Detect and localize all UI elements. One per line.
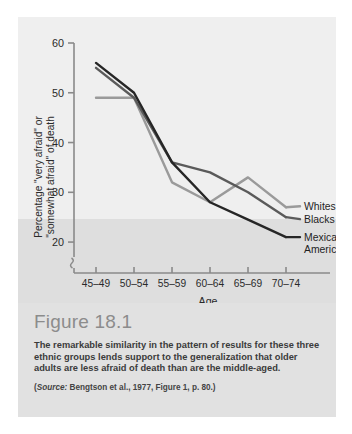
- y-axis-title-line2: "somewhat afraid" of death: [45, 116, 56, 238]
- x-axis-ticks: 45–4950–5455–5960–6465–6970–74: [82, 267, 301, 289]
- source-citation: Bengtson et al., 1977, Figure 1, p. 80.: [67, 383, 213, 392]
- figure-source: (Source: Bengtson et al., 1977, Figure 1…: [34, 383, 322, 393]
- source-label: Source:: [37, 383, 67, 392]
- y-tick-label: 50: [52, 87, 64, 99]
- series-line-blacks: [96, 68, 286, 217]
- legend-leader-whites: [286, 206, 300, 207]
- axis-break-icon: [71, 258, 74, 268]
- figure-description: The remarkable similarity in the pattern…: [34, 340, 322, 375]
- legend-leader-blacks: [286, 217, 300, 219]
- x-tick-label: 60–64: [196, 278, 225, 289]
- y-axis-title-line1: Percentage "very afraid" or: [33, 116, 44, 238]
- chart-legend: WhitesBlacksMexicanAmericans: [286, 201, 336, 254]
- figure-heading: Figure 18.1: [34, 311, 322, 333]
- source-paren-close: ): [213, 383, 216, 392]
- x-axis-title: Age: [199, 295, 218, 303]
- legend-label-whites: Whites: [304, 201, 336, 212]
- legend-label-mexican: Mexican: [304, 232, 336, 243]
- figure-caption-block: Figure 18.1 The remarkable similarity in…: [18, 303, 336, 417]
- x-tick-label: 65–69: [234, 278, 263, 289]
- y-axis-title: Percentage "very afraid" or "somewhat af…: [33, 116, 56, 238]
- y-tick-label: 60: [52, 37, 64, 49]
- figure-root: 2030405060 45–4950–5455–5960–6465–6970–7…: [0, 0, 352, 434]
- chart-series-group: [96, 63, 286, 237]
- legend-label-blacks: Blacks: [304, 214, 335, 225]
- x-tick-label: 50–54: [120, 278, 149, 289]
- series-line-whites: [96, 98, 286, 207]
- x-tick-label: 45–49: [82, 278, 111, 289]
- line-chart: 2030405060 45–4950–5455–5960–6465–6970–7…: [18, 17, 336, 303]
- legend-label-americans: Americans: [304, 244, 336, 255]
- x-tick-label: 70–74: [272, 278, 301, 289]
- x-tick-label: 55–59: [158, 278, 187, 289]
